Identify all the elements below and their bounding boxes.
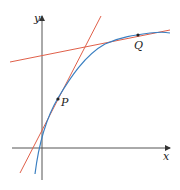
tangent-line-q [10,30,170,62]
point-q [136,33,139,36]
point-p-label: P [60,96,69,109]
y-axis-label: y [33,12,41,25]
point-q-label: Q [134,39,143,52]
tangent-diagram: y x P Q [0,0,180,190]
curve [35,32,170,174]
x-axis-label: x [163,150,170,163]
point-p [56,97,59,100]
